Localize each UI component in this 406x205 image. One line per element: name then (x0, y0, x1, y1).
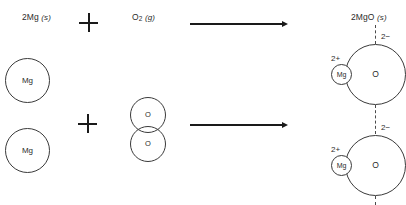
product-magnesium-oxide-label: 2MgO (s) (351, 13, 387, 22)
plus-sign-middle (78, 114, 97, 133)
arrow-shaft (190, 124, 282, 126)
product-unit-1-anion-charge: 2− (381, 33, 390, 41)
product-unit-1-leader-line (375, 25, 376, 44)
product-unit-1-magnesium-ion: Mg (331, 64, 352, 85)
reactant-magnesium-state: (s) (41, 13, 51, 22)
reaction-diagram: 2Mg (s) O2 (g) 2MgO (s) Mg Mg O O (0, 0, 406, 205)
product-unit-1-cation-charge: 2+ (331, 55, 340, 63)
reactant-o2-atom-1-symbol: O (145, 111, 151, 119)
product-unit-2-anion-charge: 2− (381, 124, 390, 132)
reaction-arrow-bottom (190, 122, 288, 128)
product-units-connector-line (375, 105, 376, 134)
plus-sign-top (79, 13, 98, 32)
product-unit-2-cation-charge: 2+ (331, 146, 340, 154)
product-formula: 2MgO (351, 12, 375, 22)
reactant-mg-atom-1: Mg (5, 58, 50, 103)
arrow-head (282, 21, 288, 27)
reaction-arrow-top (190, 21, 288, 27)
product-unit-1-oxide-symbol: O (372, 70, 379, 79)
reactant-oxygen-label: O2 (g) (132, 13, 155, 23)
product-unit-1-magnesium-symbol: Mg (337, 71, 347, 78)
reactant-magnesium-formula: 2Mg (22, 12, 39, 22)
reactant-o2-molecule: O O (130, 97, 166, 157)
reactant-o2-atom-2-symbol: O (145, 140, 151, 148)
reactant-mg-atom-1-symbol: Mg (22, 77, 33, 85)
reactant-oxygen-state: (g) (145, 13, 155, 22)
reactant-oxygen-subscript: 2 (139, 15, 143, 22)
product-state: (s) (377, 13, 387, 22)
reactant-magnesium-label: 2Mg (s) (22, 13, 51, 22)
product-unit-2-magnesium-symbol: Mg (337, 162, 347, 169)
reactant-o2-atom-2: O (130, 126, 166, 162)
reactant-mg-atom-2-symbol: Mg (22, 147, 33, 155)
product-unit-1-oxide-ion: O (345, 44, 406, 105)
product-unit-2-oxide-symbol: O (372, 161, 379, 170)
product-unit-2-tail-line (375, 196, 376, 205)
reactant-oxygen-formula: O (132, 12, 139, 22)
reactant-mg-atom-2: Mg (5, 128, 50, 173)
product-unit-2-oxide-ion: O (345, 135, 406, 196)
arrow-shaft (190, 23, 282, 25)
product-unit-2-magnesium-ion: Mg (331, 155, 352, 176)
arrow-head (282, 122, 288, 128)
